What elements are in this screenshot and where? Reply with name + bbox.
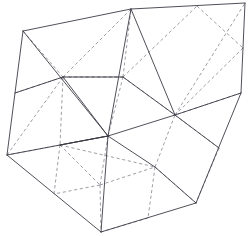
figure-background xyxy=(0,0,250,237)
wireframe-figure-container xyxy=(0,0,250,237)
wireframe-drawing xyxy=(0,0,250,237)
